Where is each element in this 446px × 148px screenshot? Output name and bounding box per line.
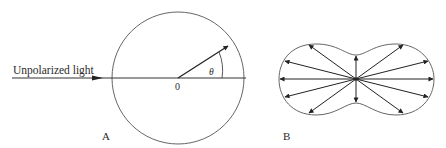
arrow-lower-left-2 (309, 79, 356, 113)
panel-label-a: A (102, 130, 110, 142)
arrow-upper-left-1 (285, 61, 356, 79)
arrow-upper-left-2 (309, 45, 356, 79)
arrow-lower-right-2 (356, 79, 403, 113)
scattering-center-dot (354, 77, 358, 81)
arrow-upper-right-1 (356, 61, 428, 79)
arrow-upper-right-2 (356, 45, 403, 79)
origin-label: 0 (175, 81, 180, 92)
diagram-canvas: Unpolarized light 0 θ A B (0, 0, 446, 148)
incoming-light-label: Unpolarized light (13, 64, 95, 77)
theta-label: θ (209, 67, 214, 77)
theta-arc (219, 52, 223, 78)
figure-b: B (279, 44, 434, 142)
scattered-ray-arrow (178, 46, 228, 78)
figure-a: Unpolarized light 0 θ A (12, 12, 246, 144)
panel-label-b: B (283, 130, 290, 142)
arrow-lower-right-1 (356, 79, 428, 97)
arrow-lower-left-1 (285, 79, 356, 97)
incoming-arrowhead-icon (92, 76, 103, 81)
